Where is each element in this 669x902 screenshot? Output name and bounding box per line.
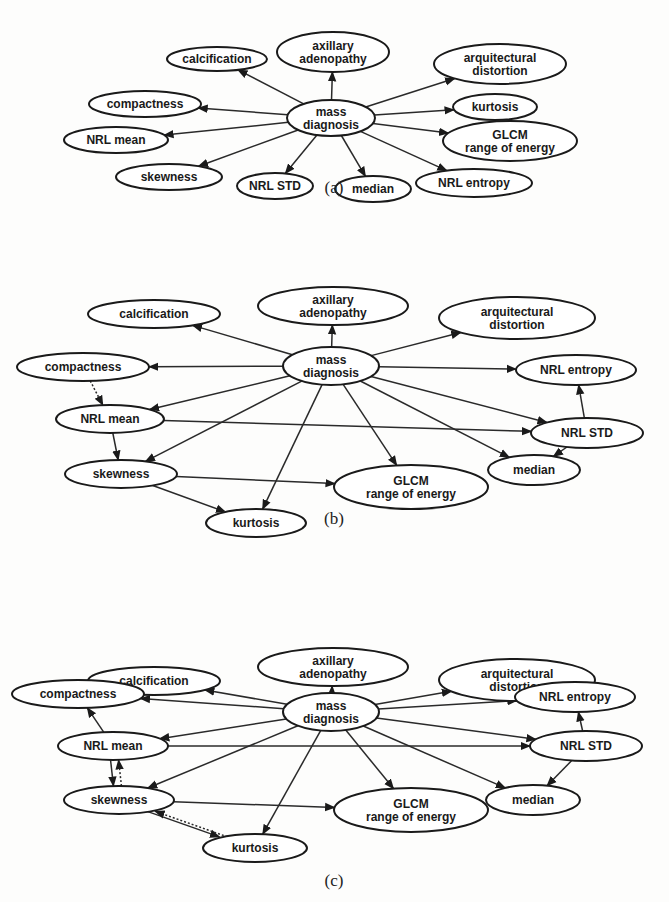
panel-caption: (a) [325, 178, 344, 197]
edge-mass-to-compactness [198, 108, 287, 115]
node-label: GLCM [393, 797, 428, 811]
node-nrlstd: NRL STD [530, 731, 642, 761]
node-nrlentropy: NRL entropy [515, 682, 635, 712]
node-label: compactness [107, 97, 184, 111]
node-nrlmean: NRL mean [58, 732, 168, 760]
node-label: median [513, 463, 555, 477]
node-nrlentropy: NRL entropy [416, 169, 532, 197]
node-glcm: GLCMrange of energy [334, 465, 488, 509]
node-skewness: skewness [65, 460, 177, 488]
node-axillary: axillaryadenopathy [258, 287, 408, 325]
panel-caption: (b) [324, 509, 344, 528]
panel-caption: (c) [325, 871, 344, 890]
edge-mass-to-arquitectural [366, 79, 455, 107]
edge-skewness-to-kurtosis [153, 486, 226, 512]
edge-mass-to-axillary [332, 72, 333, 100]
node-compactness: compactness [12, 680, 144, 708]
edge-mass-to-nrlstd [376, 718, 535, 739]
edge-nrlmean-to-skewness [111, 760, 114, 786]
edge-mass-to-calcification [193, 325, 293, 354]
panel-c: massdiagnosiscalcificationaxillaryadenop… [12, 648, 642, 890]
node-label: adenopathy [299, 306, 367, 320]
node-label: mass [316, 105, 347, 119]
edge-skewness-to-kurtosis [147, 811, 219, 837]
node-arquitectural: arquitecturaldistortion [434, 44, 566, 84]
edge-kurtosis-to-skewness [155, 811, 227, 837]
edge-mass-to-calcification [205, 690, 287, 704]
node-label: adenopathy [299, 667, 367, 681]
node-label: mass [316, 699, 347, 713]
edge-mass-to-nrlstd [285, 135, 317, 173]
node-label: distortion [489, 318, 544, 332]
node-label: arquitectural [464, 51, 537, 65]
node-label: axillary [312, 39, 354, 53]
node-calcification: calcification [167, 47, 267, 71]
node-axillary: axillaryadenopathy [258, 648, 408, 686]
node-calcification: calcification [88, 300, 220, 328]
node-nrlmean: NRL mean [56, 405, 164, 433]
node-label: NRL entropy [539, 690, 611, 704]
edge-mass-to-compactness [149, 366, 283, 367]
node-label: adenopathy [299, 52, 367, 66]
node-label: range of energy [366, 810, 456, 824]
node-label: GLCM [492, 128, 527, 142]
panel-a: massdiagnosiscalcificationaxillaryadenop… [64, 32, 577, 202]
node-kurtosis: kurtosis [206, 509, 306, 537]
edge-nrlstd-to-nrlentropy [579, 385, 585, 418]
node-label: NRL mean [80, 412, 139, 426]
node-compactness: compactness [17, 353, 149, 381]
node-glcm: GLCMrange of energy [334, 788, 488, 832]
node-axillary: axillaryadenopathy [277, 32, 389, 72]
node-label: axillary [312, 654, 354, 668]
node-label: calcification [182, 52, 251, 66]
node-label: mass [316, 353, 347, 367]
edge-mass-to-nrlentropy [378, 701, 516, 710]
edge-mass-to-kurtosis [263, 385, 322, 509]
edge-mass-to-glcm [343, 384, 397, 465]
node-median: median [486, 785, 580, 815]
edge-mass-to-median [341, 135, 365, 176]
figure-canvas: massdiagnosiscalcificationaxillaryadenop… [0, 0, 669, 902]
edge-mass-to-calcification [238, 70, 304, 104]
node-label: skewness [91, 793, 148, 807]
node-label: diagnosis [303, 118, 359, 132]
node-median: median [488, 455, 580, 485]
edge-mass-to-skewness [148, 726, 298, 788]
edge-nrlstd-to-median [553, 447, 566, 456]
node-label: median [352, 182, 394, 196]
node-label: median [512, 793, 554, 807]
node-label: diagnosis [303, 366, 359, 380]
node-nrlentropy: NRL entropy [516, 355, 636, 385]
node-label: compactness [40, 687, 117, 701]
node-glcm: GLCMrange of energy [443, 121, 577, 161]
node-label: arquitectural [481, 305, 554, 319]
edge-nrlmean-to-compactness [87, 708, 103, 732]
edge-nrlstd-to-nrlentropy [578, 712, 582, 731]
edge-mass-to-arquitectural [375, 691, 451, 704]
node-label: NRL STD [249, 179, 301, 193]
node-kurtosis: kurtosis [203, 834, 307, 862]
node-nrlmean: NRL mean [64, 127, 168, 153]
node-label: compactness [45, 360, 122, 374]
node-label: kurtosis [472, 100, 519, 114]
node-label: NRL mean [86, 133, 145, 147]
edge-mass-to-nrlmean [160, 719, 286, 739]
node-nrlstd: NRL STD [237, 173, 313, 199]
edge-mass-to-nrlentropy [360, 131, 446, 170]
node-mass: massdiagnosis [283, 347, 379, 385]
node-label: distortion [472, 64, 527, 78]
edge-mass-to-kurtosis [374, 110, 454, 115]
node-label: GLCM [393, 474, 428, 488]
node-mass: massdiagnosis [283, 693, 379, 731]
edge-nrlstd-to-median [547, 761, 572, 786]
node-median: median [335, 176, 411, 202]
node-label: arquitectural [481, 667, 554, 681]
edge-mass-to-nrlmean [150, 376, 290, 410]
edge-mass-to-skewness [199, 130, 299, 166]
edge-compactness-to-nrlmean [90, 381, 103, 405]
node-label: range of energy [465, 141, 555, 155]
node-label: NRL STD [561, 426, 613, 440]
node-skewness: skewness [64, 786, 174, 814]
node-label: calcification [119, 307, 188, 321]
edge-mass-to-glcm [373, 123, 448, 133]
